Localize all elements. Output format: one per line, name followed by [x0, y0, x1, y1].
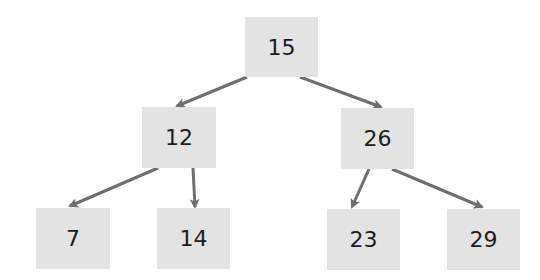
edge-arrow-26-to-23 [352, 169, 369, 207]
node-label: 26 [364, 126, 392, 151]
edge-arrow-15-to-12 [177, 77, 247, 106]
tree-node-leaf: 23 [327, 209, 400, 270]
node-label: 12 [165, 125, 193, 150]
edge-arrow-12-to-14 [193, 168, 195, 207]
tree-node-leaf: 29 [447, 209, 520, 270]
node-label: 14 [180, 226, 208, 251]
node-label: 15 [268, 35, 296, 60]
tree-node-leaf: 7 [36, 208, 110, 269]
edge-arrow-26-to-29 [392, 169, 482, 207]
tree-node-root: 15 [245, 17, 318, 77]
node-label: 23 [350, 227, 378, 252]
node-label: 7 [66, 226, 80, 251]
tree-node-right-child: 26 [341, 108, 414, 169]
edge-arrow-12-to-7 [70, 168, 158, 206]
tree-node-leaf: 14 [157, 208, 230, 269]
tree-node-left-child: 12 [142, 107, 216, 168]
node-label: 29 [470, 227, 498, 252]
edge-arrow-15-to-26 [300, 77, 381, 107]
tree-diagram: 15 12 26 7 14 23 29 [0, 0, 540, 280]
